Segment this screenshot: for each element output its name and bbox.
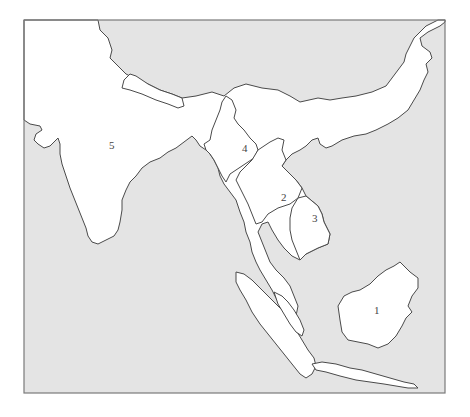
region-label-4: 4	[242, 142, 248, 154]
region-label-3: 3	[312, 212, 318, 224]
region-label-2: 2	[281, 191, 287, 203]
region-label-1: 1	[374, 304, 380, 316]
southeast-asia-map: 1 2 3 4 5	[0, 0, 470, 417]
region-label-5: 5	[109, 139, 115, 151]
map-container: 1 2 3 4 5	[0, 0, 470, 417]
